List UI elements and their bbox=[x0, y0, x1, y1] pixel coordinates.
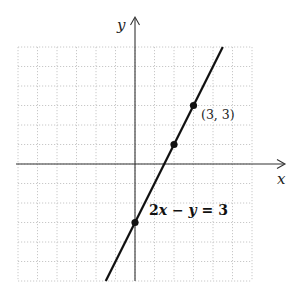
point-label-3-3: (3, 3) bbox=[201, 107, 235, 122]
equation-rest: = 3 bbox=[197, 202, 228, 218]
data-point bbox=[170, 141, 177, 148]
data-point bbox=[131, 219, 138, 226]
y-axis-label: y bbox=[116, 16, 126, 34]
equation-minus: − bbox=[167, 202, 188, 218]
x-axis-label: x bbox=[277, 170, 286, 188]
equation-coefficient: 2 bbox=[149, 202, 159, 218]
data-point bbox=[190, 102, 197, 109]
coordinate-graph: x y (3, 3) 2x − y = 3 bbox=[0, 0, 294, 308]
equation-label: 2x − y = 3 bbox=[149, 202, 228, 218]
